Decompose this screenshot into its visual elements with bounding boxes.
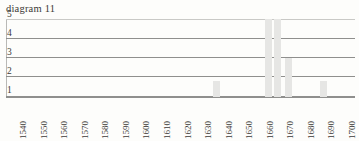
x-tick-label-1690: 1690 — [327, 121, 336, 139]
x-tick-label-1640: 1640 — [225, 121, 234, 139]
bar-1668 — [285, 58, 292, 97]
x-axis-line — [6, 97, 355, 98]
x-axis-labels: 1540155015601570158015901600161016201630… — [6, 99, 355, 141]
x-tick-label-1670: 1670 — [286, 121, 295, 139]
x-tick-label-1650: 1650 — [245, 121, 254, 139]
x-tick-label-1550: 1550 — [40, 121, 49, 139]
bars-layer — [6, 19, 355, 97]
bar-1690 — [320, 81, 327, 97]
x-tick-label-1610: 1610 — [163, 121, 172, 139]
x-tick-label-1700: 1700 — [348, 121, 357, 139]
x-tick-label-1560: 1560 — [60, 121, 69, 139]
bar-1630 — [213, 81, 220, 97]
x-tick-label-1680: 1680 — [307, 121, 316, 139]
bar-1665 — [274, 19, 281, 97]
bar-1662 — [265, 19, 272, 97]
diagram-figure: diagram 11 5 4 3 2 1 1540155015601570158… — [0, 0, 359, 141]
x-tick-label-1570: 1570 — [81, 121, 90, 139]
x-tick-label-1590: 1590 — [122, 121, 131, 139]
plot-area: 5 4 3 2 1 — [6, 19, 355, 97]
page-title: diagram 11 — [6, 3, 55, 14]
x-tick-label-1630: 1630 — [204, 121, 213, 139]
x-tick-label-1600: 1600 — [142, 121, 151, 139]
x-tick-label-1580: 1580 — [101, 121, 110, 139]
x-tick-label-1540: 1540 — [19, 121, 28, 139]
x-tick-label-1620: 1620 — [184, 121, 193, 139]
x-tick-label-1660: 1660 — [266, 121, 275, 139]
